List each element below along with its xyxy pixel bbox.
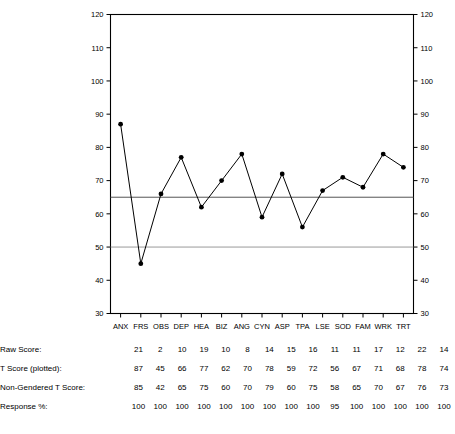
data-point-SOD bbox=[340, 175, 345, 180]
table-cell: 22 bbox=[411, 340, 433, 359]
table-cell: 56 bbox=[324, 359, 346, 378]
data-point-BIZ bbox=[219, 178, 224, 183]
y-tick-label-left-50: 50 bbox=[95, 243, 103, 252]
table-cell: 87 bbox=[128, 359, 150, 378]
table-cell: 60 bbox=[215, 378, 237, 397]
data-point-TPA bbox=[300, 225, 305, 230]
table-row: Non-Gendered T Score:8542657560707960755… bbox=[0, 378, 455, 397]
y-tick-label-right-90: 90 bbox=[421, 110, 429, 119]
table-cell: 14 bbox=[433, 340, 455, 359]
score-table-container: Raw Score:2121019108141516111117122214T … bbox=[0, 340, 455, 434]
table-cell: 100 bbox=[128, 397, 150, 416]
table-cell: 100 bbox=[346, 397, 368, 416]
table-cell: 100 bbox=[433, 397, 455, 416]
data-point-FRS bbox=[138, 261, 143, 266]
row-label: Non-Gendered T Score: bbox=[0, 378, 128, 397]
table-cell: 65 bbox=[171, 378, 193, 397]
table-cell: 60 bbox=[280, 378, 302, 397]
y-tick-label-right-60: 60 bbox=[421, 210, 429, 219]
table-cell: 100 bbox=[215, 397, 237, 416]
table-cell: 70 bbox=[237, 378, 259, 397]
table-cell: 100 bbox=[237, 397, 259, 416]
x-category-label-OBS: OBS bbox=[153, 322, 169, 331]
data-point-ASP bbox=[280, 172, 285, 177]
table-cell: 85 bbox=[128, 378, 150, 397]
table-cell: 17 bbox=[368, 340, 390, 359]
table-cell: 100 bbox=[258, 397, 280, 416]
table-cell: 8 bbox=[237, 340, 259, 359]
table-cell: 10 bbox=[171, 340, 193, 359]
table-cell: 77 bbox=[193, 359, 215, 378]
table-cell: 42 bbox=[149, 378, 171, 397]
x-category-label-ANX: ANX bbox=[113, 322, 128, 331]
table-cell: 67 bbox=[346, 359, 368, 378]
y-tick-label-left-100: 100 bbox=[91, 77, 104, 86]
table-cell: 74 bbox=[433, 359, 455, 378]
y-tick-label-left-70: 70 bbox=[95, 176, 103, 185]
x-category-label-DEP: DEP bbox=[173, 322, 188, 331]
x-category-label-WRK: WRK bbox=[374, 322, 392, 331]
table-cell: 62 bbox=[215, 359, 237, 378]
y-tick-label-left-90: 90 bbox=[95, 110, 103, 119]
table-cell: 71 bbox=[368, 359, 390, 378]
y-tick-label-left-110: 110 bbox=[92, 44, 104, 53]
x-category-label-TPA: TPA bbox=[295, 322, 309, 331]
table-cell: 11 bbox=[346, 340, 368, 359]
table-cell: 66 bbox=[171, 359, 193, 378]
table-cell: 14 bbox=[258, 340, 280, 359]
table-cell: 78 bbox=[411, 359, 433, 378]
y-tick-label-right-120: 120 bbox=[421, 10, 434, 19]
y-tick-label-right-80: 80 bbox=[421, 143, 429, 152]
table-cell: 100 bbox=[171, 397, 193, 416]
y-tick-label-right-30: 30 bbox=[421, 309, 429, 318]
y-tick-label-right-70: 70 bbox=[421, 176, 429, 185]
row-label: Raw Score: bbox=[0, 340, 128, 359]
table-cell: 100 bbox=[411, 397, 433, 416]
table-cell: 100 bbox=[193, 397, 215, 416]
y-tick-label-right-50: 50 bbox=[421, 243, 429, 252]
table-cell: 75 bbox=[302, 378, 324, 397]
x-category-label-ANG: ANG bbox=[234, 322, 250, 331]
table-cell: 11 bbox=[324, 340, 346, 359]
y-tick-label-left-30: 30 bbox=[95, 309, 103, 318]
profile-line-chart: 3030404050506060707080809090100100110110… bbox=[0, 0, 455, 340]
table-cell: 12 bbox=[389, 340, 411, 359]
data-point-FAM bbox=[361, 185, 366, 190]
x-category-label-FRS: FRS bbox=[133, 322, 148, 331]
table-cell: 73 bbox=[433, 378, 455, 397]
table-cell: 70 bbox=[237, 359, 259, 378]
data-point-ANX bbox=[118, 122, 123, 127]
table-cell: 100 bbox=[389, 397, 411, 416]
table-cell: 68 bbox=[389, 359, 411, 378]
data-point-DEP bbox=[179, 155, 184, 160]
y-tick-label-right-110: 110 bbox=[421, 44, 433, 53]
plot-frame bbox=[111, 15, 414, 314]
table-row: T Score (plotted):8745667762707859725667… bbox=[0, 359, 455, 378]
table-cell: 100 bbox=[302, 397, 324, 416]
table-cell: 95 bbox=[324, 397, 346, 416]
y-tick-label-left-60: 60 bbox=[95, 210, 103, 219]
table-cell: 100 bbox=[280, 397, 302, 416]
data-point-OBS bbox=[159, 192, 164, 197]
row-label: T Score (plotted): bbox=[0, 359, 128, 378]
table-cell: 16 bbox=[302, 340, 324, 359]
data-point-HEA bbox=[199, 205, 204, 210]
x-category-label-BIZ: BIZ bbox=[216, 322, 228, 331]
data-point-ANG bbox=[239, 152, 244, 157]
x-category-label-HEA: HEA bbox=[194, 322, 209, 331]
table-cell: 15 bbox=[280, 340, 302, 359]
row-label: Response %: bbox=[0, 397, 128, 416]
table-cell: 100 bbox=[149, 397, 171, 416]
table-cell: 70 bbox=[368, 378, 390, 397]
y-tick-label-left-80: 80 bbox=[95, 143, 103, 152]
data-point-TRT bbox=[401, 165, 406, 170]
table-cell: 59 bbox=[280, 359, 302, 378]
x-category-label-CYN: CYN bbox=[254, 322, 270, 331]
chart-container: 3030404050506060707080809090100100110110… bbox=[0, 0, 455, 340]
table-cell: 21 bbox=[128, 340, 150, 359]
data-point-WRK bbox=[381, 152, 386, 157]
data-point-CYN bbox=[260, 215, 265, 220]
table-cell: 19 bbox=[193, 340, 215, 359]
table-row: Raw Score:2121019108141516111117122214 bbox=[0, 340, 455, 359]
score-table: Raw Score:2121019108141516111117122214T … bbox=[0, 340, 455, 416]
